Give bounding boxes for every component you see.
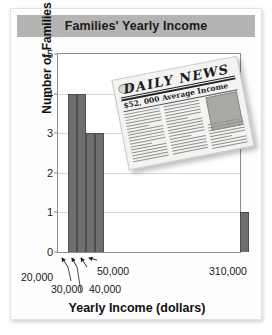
- newspaper-column: [124, 106, 169, 164]
- bar: [240, 212, 249, 252]
- x-axis-title: Yearly Income (dollars): [11, 301, 263, 315]
- y-tick-mark: [54, 252, 58, 253]
- chart-figure: Families' Yearly Income 012345 Number of…: [10, 8, 262, 320]
- bar: [77, 94, 86, 252]
- x-tick-label: 40,000: [89, 283, 121, 295]
- y-tick-mark: [54, 172, 58, 173]
- y-tick-mark: [54, 54, 58, 55]
- y-tick-label: 2: [47, 167, 53, 179]
- y-axis-title: Number of Families: [40, 0, 54, 138]
- x-tick-label: 50,000: [97, 265, 129, 277]
- newspaper-column: [202, 91, 247, 149]
- x-tick-label: 20,000: [21, 271, 53, 283]
- bar: [68, 94, 77, 252]
- x-tick-label: 310,000: [209, 265, 247, 277]
- y-tick-mark: [54, 93, 58, 94]
- y-tick-label: 0: [47, 246, 53, 258]
- bar: [95, 133, 104, 252]
- chart-title: Families' Yearly Income: [65, 19, 208, 33]
- newspaper-column: [163, 99, 208, 157]
- y-tick-label: 1: [47, 206, 53, 218]
- bar: [86, 133, 95, 252]
- x-tick-label: 30,000: [51, 283, 83, 295]
- y-tick-mark: [54, 133, 58, 134]
- y-tick-mark: [54, 212, 58, 213]
